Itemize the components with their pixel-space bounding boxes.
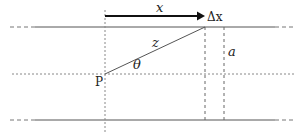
x-arrow <box>105 12 205 21</box>
diagram-canvas: x Δx z θ P a <box>0 0 300 137</box>
point-p-label: P <box>95 75 103 89</box>
delta-x-label: Δx <box>207 10 223 24</box>
z-label: z <box>151 35 159 50</box>
x-label: x <box>156 0 164 15</box>
theta-label: θ <box>133 57 141 72</box>
a-label: a <box>228 44 236 59</box>
